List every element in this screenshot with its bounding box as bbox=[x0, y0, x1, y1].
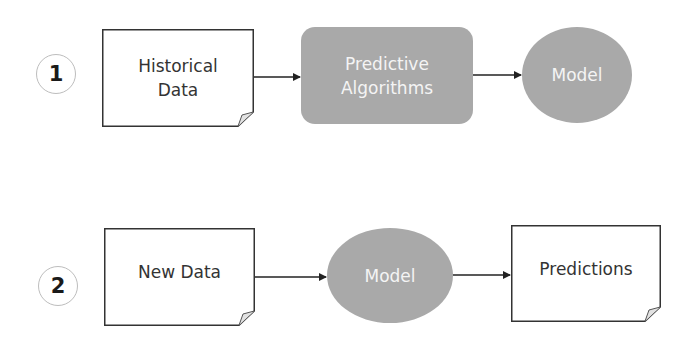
new-data-document: New Data bbox=[104, 228, 255, 326]
predictive-algorithms-box: Predictive Algorithms bbox=[301, 27, 473, 124]
model-ellipse-row2: Model bbox=[327, 228, 453, 323]
model-ellipse-row1: Model bbox=[522, 27, 632, 123]
new-data-label: New Data bbox=[138, 260, 221, 284]
historical-data-document: Historical Data bbox=[102, 29, 254, 127]
predictions-label: Predictions bbox=[539, 257, 632, 281]
predictive-algorithms-label: Predictive Algorithms bbox=[341, 52, 433, 100]
step-number-1: 1 bbox=[36, 54, 76, 94]
predictions-document: Predictions bbox=[511, 225, 661, 322]
historical-data-label: Historical Data bbox=[138, 54, 218, 102]
step-number-2: 2 bbox=[38, 266, 78, 306]
